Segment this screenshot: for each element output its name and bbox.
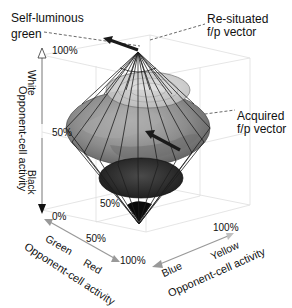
upper-disk	[106, 72, 190, 108]
resituated-line2: f/p vector	[207, 26, 268, 39]
vertical-tick-50: 50%	[52, 127, 72, 138]
self-luminous-line1: Self-luminous	[11, 12, 84, 25]
acquired-line2: f/p vector	[237, 123, 286, 136]
blue-yellow-tick-100: 100%	[213, 222, 239, 233]
red-green-tick-100: 100%	[120, 255, 146, 266]
inner-tick-50: 50%	[100, 198, 120, 209]
lower-disk	[99, 158, 183, 198]
red-green-tick-50: 50%	[86, 233, 106, 244]
self-luminous-line2: green	[11, 28, 84, 41]
self-luminous-label: Self-luminous green	[11, 12, 84, 41]
resituated-label: Re-situated f/p vector	[207, 13, 268, 39]
white-arrow-icon	[38, 48, 46, 58]
vertical-tick-100: 100%	[52, 45, 78, 56]
vertical-tick-0: 0%	[52, 211, 66, 222]
vertical-axis-title: Opponent-cell activity	[16, 86, 29, 191]
acquired-label: Acquired f/p vector	[237, 110, 286, 136]
